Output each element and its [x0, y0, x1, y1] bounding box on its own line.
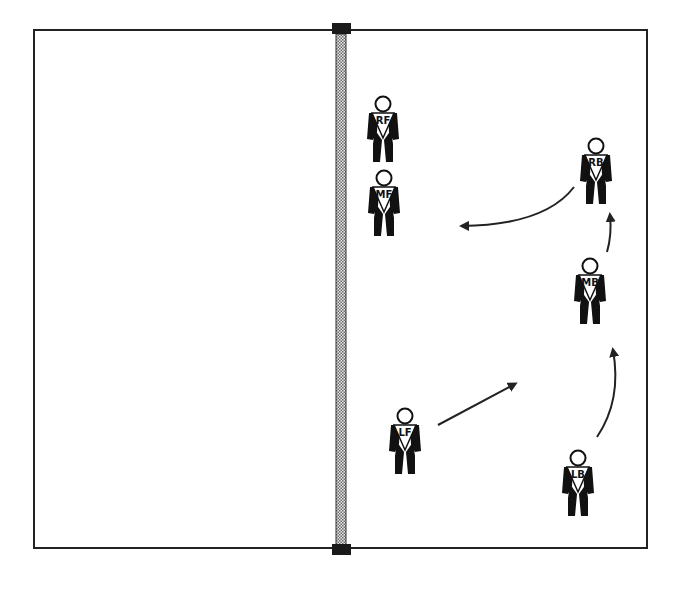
player-label: RF: [376, 115, 391, 126]
net-post-bottom: [332, 544, 351, 555]
player-label: MF: [376, 189, 393, 200]
net-post-top: [332, 23, 351, 34]
player-label: LF: [398, 427, 411, 438]
player-label: LB: [571, 469, 585, 480]
volleyball-rotation-diagram: RFMFRBMBLFLB: [0, 0, 675, 593]
player-label: RB: [588, 157, 603, 168]
player-label: MB: [581, 277, 599, 288]
net-mesh: [336, 34, 346, 546]
